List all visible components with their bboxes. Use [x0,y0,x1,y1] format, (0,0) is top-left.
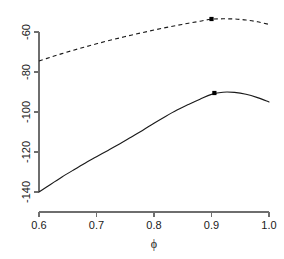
y-tick-label: -140 [20,181,32,203]
x-axis-title: ϕ [151,237,157,251]
likelihood-profile-chart: -60 -80 -100 -120 -140 0.6 0.7 0.8 0.9 1… [0,0,284,259]
x-tick-label: 0.9 [204,219,219,231]
x-tick-label: 0.6 [31,219,46,231]
y-tick-label: -80 [20,64,32,80]
y-tick-label: -120 [20,141,32,163]
x-tick-label: 1.0 [261,219,276,231]
dashed-curve-maximum-marker [209,17,213,21]
y-tick-label: -100 [20,101,32,123]
x-tick-label: 0.7 [89,219,104,231]
y-tick-label: -60 [20,24,32,40]
solid-curve-maximum-marker [212,91,216,95]
x-tick-label: 0.8 [146,219,161,231]
